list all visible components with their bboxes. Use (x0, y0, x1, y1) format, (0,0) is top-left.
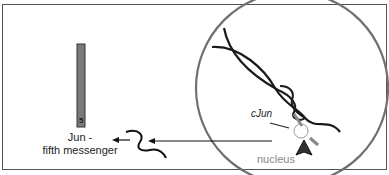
jun-protein-bar (77, 44, 85, 127)
export-arrowhead (148, 138, 155, 144)
bar-number: 5 (79, 116, 83, 125)
nucleus-circle (196, 0, 388, 175)
messenger-label-line1: Jun - (40, 131, 120, 144)
cjun-pointer-line (270, 123, 289, 128)
mrna-squiggle (126, 131, 166, 158)
cjun-label: cJun (251, 108, 272, 119)
nucleus-label: nucleus (257, 153, 295, 165)
polymerase-icon (296, 140, 312, 155)
messenger-label-line2: fifth messenger (30, 144, 130, 157)
gene-segment-2 (310, 138, 318, 145)
